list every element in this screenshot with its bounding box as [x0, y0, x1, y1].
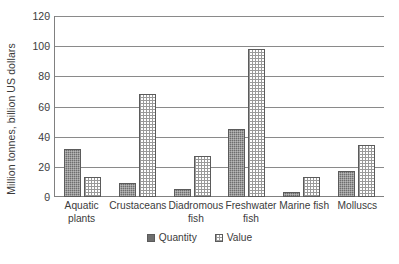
- legend-label: Value: [227, 232, 252, 243]
- y-tick-label: 0: [6, 191, 50, 203]
- bar-value: [194, 156, 211, 197]
- x-tick-label: Marine fish: [278, 200, 331, 232]
- bar-value: [303, 177, 320, 197]
- y-tick-mark: [46, 107, 50, 108]
- x-tick-label: Crustaceans: [108, 200, 167, 232]
- y-tick-mark: [46, 167, 50, 168]
- bar-quantity: [174, 189, 191, 197]
- y-tick-mark: [46, 197, 50, 198]
- bar-group: [219, 16, 274, 197]
- legend-swatch-icon: [215, 234, 223, 242]
- y-tick-label: 80: [6, 70, 50, 82]
- y-tick-mark: [46, 46, 50, 47]
- x-tick-label: Molluscs: [331, 200, 384, 232]
- y-tick-label: 20: [6, 161, 50, 173]
- bar-quantity: [119, 183, 136, 197]
- bar-group: [329, 16, 384, 197]
- bar-value: [248, 49, 265, 197]
- legend-label: Quantity: [159, 232, 197, 243]
- bar-group: [55, 16, 110, 197]
- bar-quantity: [283, 192, 300, 197]
- bar-quantity: [64, 149, 81, 197]
- bar-group: [274, 16, 329, 197]
- legend-swatch-icon: [147, 234, 155, 242]
- bar-value: [139, 94, 156, 197]
- bar-group: [165, 16, 220, 197]
- legend-item-quantity: Quantity: [147, 232, 197, 243]
- y-tick-label: 120: [6, 10, 50, 22]
- bar-value: [358, 145, 375, 197]
- bar-group: [110, 16, 165, 197]
- x-tick-label: Aquaticplants: [55, 200, 108, 232]
- bar-groups: [55, 16, 384, 197]
- bar-value: [84, 177, 101, 197]
- x-tick-label: Freshwaterfish: [224, 200, 277, 232]
- bar-chart: Million tonnes, billion US dollars 02040…: [0, 0, 399, 264]
- y-tick-mark: [46, 76, 50, 77]
- y-tick-label: 40: [6, 131, 50, 143]
- bar-quantity: [228, 129, 245, 197]
- x-tick-label: Diadromousfish: [167, 200, 224, 232]
- x-axis-category-labels: AquaticplantsCrustaceansDiadromousfishFr…: [55, 200, 384, 232]
- y-tick-mark: [46, 137, 50, 138]
- y-tick-label: 100: [6, 40, 50, 52]
- y-tick-mark: [46, 16, 50, 17]
- bar-quantity: [338, 171, 355, 197]
- chart-legend: QuantityValue: [0, 232, 399, 243]
- legend-item-value: Value: [215, 232, 252, 243]
- y-axis-ticks: 020406080100120: [0, 16, 50, 197]
- y-tick-label: 60: [6, 101, 50, 113]
